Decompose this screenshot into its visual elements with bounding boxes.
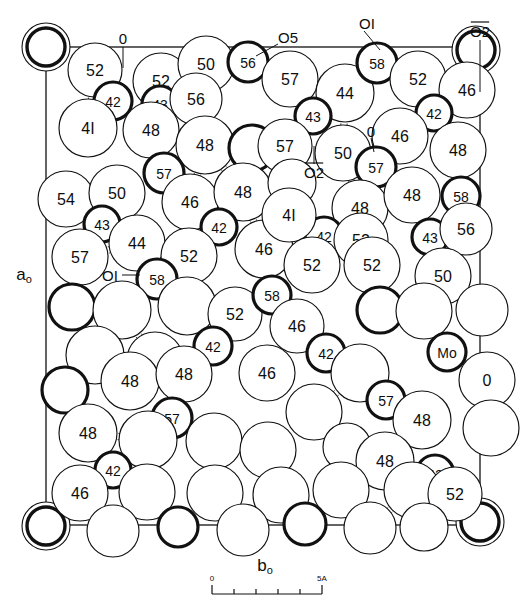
atom-height-label: 48 — [175, 366, 193, 383]
atom-height-label: 48 — [403, 187, 421, 204]
atom-height-label: 46 — [71, 485, 89, 502]
bond-site-label: OI — [359, 15, 375, 32]
atom-height-label: 43 — [422, 230, 438, 246]
bond-site-label: O2 — [470, 23, 490, 40]
atom-height-label: 48 — [413, 412, 431, 429]
bond-site-label: OI — [102, 267, 118, 284]
atom-circle-labeled: 48 — [101, 352, 159, 410]
atom-height-label: 52 — [180, 248, 198, 265]
atom-circle-labeled: 52 — [284, 237, 340, 293]
atom-circle-labeled: 48 — [156, 346, 212, 402]
atom-circle-labeled: 4I — [262, 188, 316, 242]
atom-height-label: 56 — [240, 55, 256, 71]
atom-height-label: 56 — [187, 91, 205, 108]
atom-circle — [463, 400, 519, 456]
atom-circle-labeled: 48 — [123, 102, 179, 158]
atom-height-label: 57 — [156, 166, 172, 182]
atom-height-label: 57 — [276, 138, 294, 155]
atom-circle — [400, 503, 448, 551]
atom-height-label: 42 — [211, 220, 227, 236]
atom-height-label: 0 — [483, 372, 492, 389]
atom-height-label: 48 — [196, 137, 214, 154]
atom-height-label: 46 — [181, 194, 199, 211]
atom-circle-labeled: Mo — [428, 333, 466, 371]
atom-height-label: 50 — [334, 145, 352, 162]
atom-height-label: 50 — [108, 185, 126, 202]
atom-circle-labeled: 52 — [344, 237, 400, 293]
atom-circle — [158, 507, 198, 547]
atom-height-label: 46 — [288, 318, 306, 335]
atom-height-label: 42 — [318, 346, 334, 362]
atom-circle — [22, 23, 70, 71]
bond-site-label: 0 — [119, 30, 127, 47]
atom-height-label: 56 — [457, 221, 475, 238]
atom-circle-labeled: 48 — [176, 116, 234, 174]
scale-bar-max-label: 5A — [317, 574, 327, 583]
atom-height-label: 42 — [105, 463, 121, 479]
atom-circle-labeled: 48 — [384, 167, 440, 223]
atom-circle — [186, 413, 242, 469]
atom-height-label: 54 — [57, 191, 75, 208]
atom-height-label: 58 — [264, 288, 280, 304]
atom-circle — [396, 283, 452, 339]
atom-height-label: 44 — [336, 85, 354, 102]
atom-height-label: 58 — [149, 272, 165, 288]
atom-height-label: 48 — [142, 122, 160, 139]
bond-site-label: O2 — [304, 164, 324, 181]
atom-height-label: 58 — [453, 189, 469, 205]
atom-circle-labeled: 48 — [430, 122, 486, 178]
atom-circle — [344, 502, 396, 554]
atom-height-label: 46 — [458, 82, 476, 99]
atom-height-label: 50 — [197, 56, 215, 73]
atom-height-label: 43 — [305, 109, 321, 125]
atom-circle-labeled: 56 — [440, 203, 492, 255]
atom-height-label: 57 — [378, 393, 394, 409]
atom-height-label: 57 — [368, 160, 384, 176]
atom-height-label: 48 — [121, 373, 139, 390]
atom-height-label: 42 — [205, 339, 221, 355]
atom-height-label: 48 — [234, 184, 252, 201]
atom-circle-labeled: 57 — [52, 229, 108, 285]
atom-height-label: 50 — [434, 268, 452, 285]
atom-height-label: 52 — [226, 306, 244, 323]
atom-height-label: 4I — [81, 120, 94, 137]
atom-height-label: 57 — [281, 71, 299, 88]
atom-height-label: 52 — [303, 257, 321, 274]
atom-circle — [284, 503, 326, 545]
atom-height-label: 4I — [282, 207, 295, 224]
atom-circle-labeled: 46 — [239, 345, 295, 401]
atom-height-label: 57 — [71, 249, 89, 266]
atom-height-label: 46 — [258, 365, 276, 382]
atom-height-label: Mo — [437, 345, 457, 361]
atom-height-label: 44 — [128, 235, 146, 252]
atom-height-label: 52 — [86, 62, 104, 79]
atom-height-label: 52 — [409, 71, 427, 88]
figure-canvas: 52525056574458524642435643424I4848575046… — [0, 0, 530, 610]
atom-height-label: 58 — [369, 56, 385, 72]
atom-circle — [87, 505, 139, 557]
atom-height-label: 48 — [376, 453, 394, 470]
bond-site-label: O5 — [278, 29, 298, 46]
atom-height-label: 52 — [363, 257, 381, 274]
scale-bar-min-label: 0 — [210, 574, 215, 583]
bond-site-label: 0 — [367, 123, 375, 140]
atom-circle-labeled: 4I — [59, 99, 117, 157]
atom-circle — [49, 284, 95, 330]
crystal-structure-diagram: 52525056574458524642435643424I4848575046… — [0, 0, 530, 610]
atom-height-label: 48 — [79, 425, 97, 442]
atom-height-label: 52 — [446, 486, 464, 503]
atom-height-label: 46 — [255, 241, 273, 258]
atom-circle-labeled: 0 — [459, 352, 515, 408]
atom-height-label: 46 — [391, 128, 409, 145]
atom-height-label: 43 — [94, 217, 110, 233]
atom-circle — [456, 284, 508, 336]
atom-circle — [217, 504, 269, 556]
atom-height-label: 42 — [426, 106, 442, 122]
atom-height-label: 48 — [449, 142, 467, 159]
